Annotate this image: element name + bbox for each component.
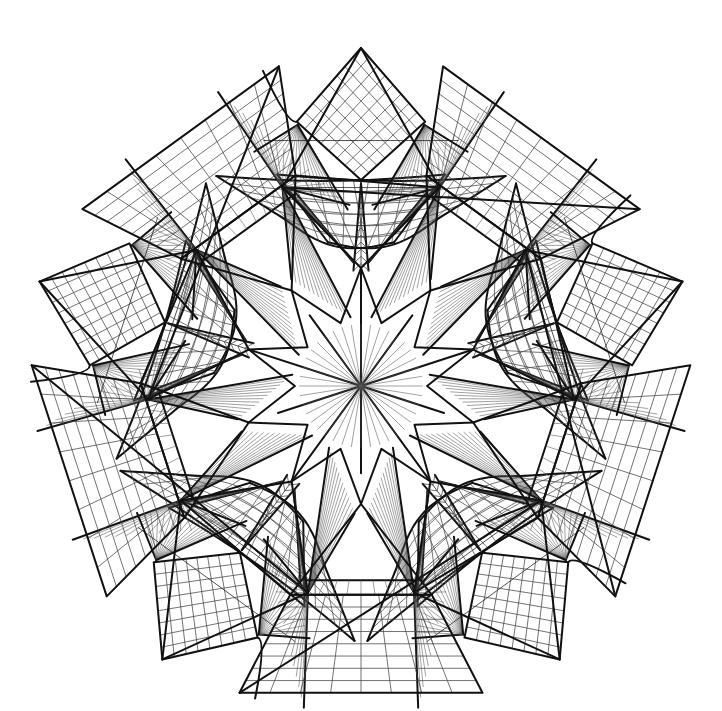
crease-pattern-figure (0, 0, 722, 711)
crease-pattern-canvas (0, 0, 722, 711)
